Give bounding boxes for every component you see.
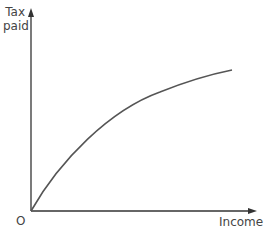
y-axis-label-line1: Tax	[3, 5, 25, 19]
tax-curve	[31, 70, 232, 211]
y-axis-label: Tax paid	[3, 5, 25, 33]
x-axis-arrow-icon	[248, 208, 257, 214]
y-axis-label-line2: paid	[3, 19, 25, 33]
y-axis-arrow-icon	[28, 8, 34, 17]
x-axis-label: Income	[219, 215, 263, 229]
y-axis	[28, 8, 34, 211]
tax-income-chart	[0, 0, 268, 234]
origin-label: O	[16, 214, 25, 228]
x-axis	[31, 208, 257, 214]
